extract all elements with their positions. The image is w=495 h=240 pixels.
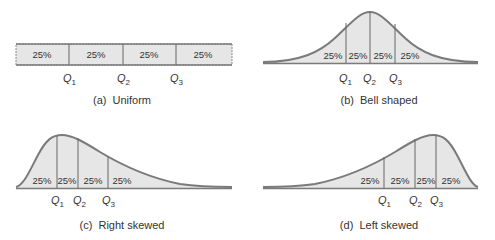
percent-label: 25%: [112, 175, 132, 186]
q2-label: Q2: [73, 194, 87, 209]
caption-right-skewed: (c) Right skewed: [80, 219, 165, 231]
q2-label: Q2: [117, 72, 131, 87]
q1-label: Q1: [378, 194, 392, 209]
percent-label: 25%: [32, 49, 52, 60]
percent-label: 25%: [390, 175, 410, 186]
q2-label: Q2: [363, 72, 377, 87]
percent-label: 25%: [400, 50, 420, 61]
panel-right-skewed: 25% 25% 25% 25% Q1 Q2 Q3 (c) Right skewe…: [16, 135, 232, 231]
q3-label: Q3: [389, 72, 403, 87]
percent-label: 25%: [57, 175, 77, 186]
percent-label: 25%: [360, 175, 380, 186]
percent-label: 25%: [348, 50, 368, 61]
q2-label: Q2: [409, 194, 423, 209]
distribution-shapes-diagram: 25% 25% 25% 25% Q1 Q2 Q3 (a) Uniform 25%…: [0, 0, 495, 240]
q1-label: Q1: [63, 72, 77, 87]
q3-label: Q3: [102, 194, 116, 209]
percent-label: 25%: [373, 50, 393, 61]
percent-label: 25%: [193, 49, 213, 60]
percent-label: 25%: [323, 50, 343, 61]
percent-label: 25%: [83, 175, 103, 186]
caption-left-skewed: (d) Left skewed: [340, 219, 418, 231]
percent-label: 25%: [139, 49, 159, 60]
panel-uniform: 25% 25% 25% 25% Q1 Q2 Q3 (a) Uniform: [16, 44, 232, 106]
percent-label: 25%: [86, 49, 106, 60]
percent-label: 25%: [32, 175, 52, 186]
q1-label: Q1: [339, 72, 353, 87]
panel-bell-shaped: 25% 25% 25% 25% Q1 Q2 Q3 (b) Bell shaped: [263, 12, 478, 106]
q1-label: Q1: [51, 194, 65, 209]
caption-uniform: (a) Uniform: [93, 94, 151, 106]
q3-label: Q3: [170, 72, 184, 87]
panel-left-skewed: 25% 25% 25% 25% Q1 Q2 Q3 (d) Left skewed: [263, 135, 478, 231]
percent-label: 25%: [441, 175, 461, 186]
caption-bell-shaped: (b) Bell shaped: [340, 94, 417, 106]
percent-label: 25%: [416, 175, 436, 186]
q3-label: Q3: [430, 194, 444, 209]
